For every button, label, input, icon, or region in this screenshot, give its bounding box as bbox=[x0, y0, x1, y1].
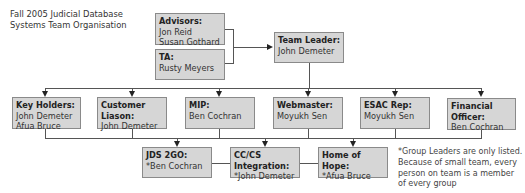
advisors-heading: Advisors: bbox=[159, 16, 221, 27]
connector-line bbox=[308, 129, 309, 138]
role-box-esac-rep: ESAC Rep: Moyukh Sen bbox=[360, 97, 430, 129]
arrow-down-icon bbox=[478, 91, 484, 97]
group-heading: JDS 2GO: bbox=[146, 150, 208, 161]
role-heading: ESAC Rep: bbox=[364, 100, 426, 111]
role-heading: Customer Liason: bbox=[101, 100, 163, 121]
group-heading: Home of Hope: bbox=[322, 150, 384, 171]
advisors-box: Advisors: Jon Reid Susan Gothard bbox=[155, 13, 225, 45]
connector-line bbox=[45, 138, 482, 139]
role-heading: Webmaster: bbox=[277, 100, 339, 111]
group-leader: *John Demeter bbox=[234, 171, 296, 182]
group-box-jds-2go: JDS 2GO: *Ben Cochran bbox=[142, 147, 212, 178]
role-member: Moyukh Sen bbox=[364, 111, 426, 122]
connector-line bbox=[300, 163, 318, 164]
footnote: *Group Leaders are only listed. Because … bbox=[398, 147, 523, 190]
role-heading: Key Holders: bbox=[16, 100, 77, 111]
role-heading: Financial Officer: bbox=[451, 101, 512, 122]
team-leader-heading: Team Leader: bbox=[278, 35, 340, 46]
group-box-home-of-hope: Home of Hope: *Afua Bruce bbox=[318, 147, 388, 178]
group-leader: *Afua Bruce bbox=[322, 171, 384, 182]
title-line-2: Systems Team Organisation bbox=[10, 20, 127, 31]
role-heading: MIP: bbox=[189, 100, 251, 111]
team-leader-name: John Demeter bbox=[278, 46, 340, 57]
ta-heading: TA: bbox=[159, 52, 221, 63]
connector-line bbox=[309, 63, 310, 88]
role-box-key-holders: Key Holders: John Demeter Afua Bruce bbox=[12, 97, 81, 129]
role-member: Ben Cochran bbox=[189, 111, 251, 122]
title-line-1: Fall 2005 Judicial Database bbox=[10, 9, 127, 20]
role-box-webmaster: Webmaster: Moyukh Sen bbox=[273, 97, 343, 129]
connector-line bbox=[212, 163, 230, 164]
role-box-financial-officer: Financial Officer: Ben Cochran bbox=[447, 98, 516, 130]
team-leader-box: Team Leader: John Demeter bbox=[274, 32, 344, 63]
connector-line bbox=[45, 129, 46, 138]
ta-box: TA: Rusty Meyers bbox=[155, 49, 225, 80]
arrow-right-icon bbox=[267, 44, 273, 50]
group-leader: *Ben Cochran bbox=[146, 161, 208, 172]
group-heading: CC/CS Integration: bbox=[234, 150, 296, 171]
role-member: John Demeter bbox=[16, 111, 77, 122]
role-box-customer-liason: Customer Liason: John Demeter bbox=[97, 97, 167, 129]
connector-line bbox=[395, 129, 396, 138]
role-member: Afua Bruce bbox=[16, 121, 77, 132]
advisor-name: Susan Gothard bbox=[159, 37, 221, 48]
connector-line bbox=[132, 129, 133, 138]
advisor-name: Jon Reid bbox=[159, 27, 221, 38]
role-box-mip: MIP: Ben Cochran bbox=[185, 97, 255, 129]
connector-line bbox=[481, 130, 482, 138]
diagram-title: Fall 2005 Judicial Database Systems Team… bbox=[10, 9, 127, 31]
ta-name: Rusty Meyers bbox=[159, 63, 221, 74]
connector-line bbox=[219, 129, 220, 138]
role-member: Moyukh Sen bbox=[277, 111, 339, 122]
connector-line bbox=[45, 88, 482, 89]
group-box-cc-cs-integration: CC/CS Integration: *John Demeter bbox=[230, 147, 300, 178]
connector-line bbox=[233, 47, 268, 48]
